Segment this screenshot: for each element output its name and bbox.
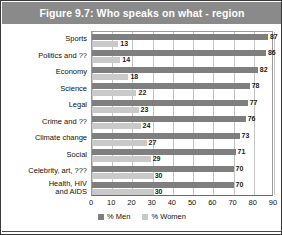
bar-group: 7327	[92, 132, 272, 147]
x-tick-label: 80	[249, 198, 257, 207]
bar-men	[92, 182, 234, 188]
bar-men	[92, 166, 234, 172]
bar-men	[92, 133, 240, 139]
x-tick-label: 10	[107, 198, 115, 207]
bar-group: 7030	[92, 181, 272, 196]
bar-women	[92, 90, 136, 96]
bar-women	[92, 107, 139, 113]
category-label: Politics and ??	[38, 52, 87, 60]
category-label: Economy	[56, 68, 87, 76]
bar-value-men: 76	[248, 116, 256, 122]
bar-men	[92, 34, 268, 40]
bar-group: 7723	[92, 99, 272, 114]
bar-value-women: 23	[141, 107, 149, 113]
chart-legend: % Men% Women	[6, 212, 278, 221]
bar-value-women: 14	[122, 57, 130, 63]
bar-value-men: 73	[242, 133, 250, 139]
category-label: Celebrity, art, ???	[28, 167, 87, 175]
category-label: Crime and ??	[42, 118, 87, 126]
category-label: Health, HIV and AIDS	[49, 180, 87, 196]
x-axis-tick-labels: 0102030405060708090	[91, 198, 273, 210]
bar-women	[92, 57, 120, 63]
bar-group: 7030	[92, 165, 272, 180]
bar-value-women: 24	[143, 123, 151, 129]
x-tick-label: 20	[127, 198, 135, 207]
bar-value-women: 30	[155, 189, 163, 195]
bar-group: 8614	[92, 49, 272, 64]
bar-men	[92, 50, 266, 56]
x-tick-label: 90	[269, 198, 277, 207]
x-tick-label: 70	[228, 198, 236, 207]
x-tick-label: 0	[89, 198, 93, 207]
legend-swatch	[142, 214, 148, 220]
category-label: Sports	[65, 35, 87, 43]
bar-men	[92, 100, 248, 106]
bar-group: 8713	[92, 33, 272, 48]
legend-item: % Women	[142, 212, 185, 221]
category-label: Science	[60, 85, 87, 93]
bar-value-men: 82	[260, 67, 268, 73]
bar-value-women: 29	[153, 156, 161, 162]
bar-value-men: 71	[238, 149, 246, 155]
category-label: Climate change	[35, 134, 87, 142]
bar-men	[92, 83, 250, 89]
bar-value-men: 78	[252, 83, 260, 89]
figure-title-bar: Figure 9.7: Who speaks on what - region	[2, 2, 282, 24]
bar-women	[92, 123, 141, 129]
x-tick-label: 40	[168, 198, 176, 207]
bar-value-women: 13	[120, 41, 128, 47]
bar-value-women: 27	[149, 140, 157, 146]
bar-value-women: 18	[130, 74, 138, 80]
x-tick-label: 50	[188, 198, 196, 207]
bar-group: 7822	[92, 82, 272, 97]
legend-label: % Women	[151, 212, 185, 221]
bar-value-men: 70	[236, 182, 244, 188]
bar-value-men: 70	[236, 166, 244, 172]
bar-group: 7129	[92, 148, 272, 163]
bar-women	[92, 189, 153, 195]
legend-item: % Men	[98, 212, 130, 221]
bar-value-women: 30	[155, 173, 163, 179]
bar-men	[92, 116, 246, 122]
x-tick-label: 60	[208, 198, 216, 207]
bar-value-women: 22	[138, 90, 146, 96]
bar-women	[92, 156, 151, 162]
category-label: Legal	[69, 101, 87, 109]
bar-women	[92, 41, 118, 47]
bar-value-men: 87	[270, 34, 278, 40]
bar-value-men: 86	[268, 50, 276, 56]
gridline	[274, 32, 275, 195]
x-tick-label: 30	[147, 198, 155, 207]
bar-group: 8218	[92, 66, 272, 81]
bottom-divider	[2, 231, 282, 232]
category-label: Social	[67, 151, 87, 159]
plot-region: 8713861482187822772376247327712970307030	[91, 31, 273, 196]
bar-women	[92, 140, 147, 146]
bar-women	[92, 173, 153, 179]
bar-women	[92, 74, 128, 80]
legend-swatch	[98, 214, 104, 220]
bar-group: 7624	[92, 115, 272, 130]
legend-label: % Men	[107, 212, 130, 221]
bar-men	[92, 67, 258, 73]
category-axis-labels: SportsPolitics and ??EconomyScienceLegal…	[6, 31, 89, 196]
chart-area: SportsPolitics and ??EconomyScienceLegal…	[6, 27, 278, 232]
page-title: Figure 9.7: Who speaks on what - region	[39, 7, 244, 19]
bar-value-men: 77	[250, 100, 258, 106]
figure-container: Figure 9.7: Who speaks on what - region …	[0, 0, 282, 235]
bar-men	[92, 149, 236, 155]
